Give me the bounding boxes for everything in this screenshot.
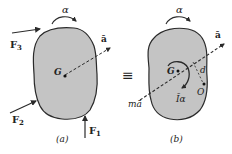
angular-accel-arrow-icon	[166, 17, 190, 24]
center-of-mass-point-a	[63, 74, 66, 77]
inertia-force-label: mā	[128, 99, 142, 109]
distance-label: d	[200, 65, 206, 75]
o-label: O	[197, 87, 205, 97]
rigid-body-a	[33, 28, 97, 120]
force-f3-label: F3	[10, 39, 22, 52]
force-f2-arrow	[10, 101, 36, 113]
caption-a: (a)	[56, 134, 69, 144]
kinetics-diagram: α ā G F3 F2 F1 (a) ≡ α ā mā G Īα	[0, 0, 232, 154]
alpha-label-b: α	[176, 4, 183, 15]
accel-label-b: ā	[215, 30, 221, 40]
force-f3-arrow	[12, 29, 40, 33]
caption-b: (b)	[170, 134, 183, 144]
force-f1-label: F1	[89, 125, 101, 138]
angular-accel-arrow-icon	[52, 17, 76, 24]
inertia-moment-label: Īα	[175, 93, 186, 104]
accel-label-a: ā	[101, 34, 107, 44]
equivalence-symbol: ≡	[122, 67, 134, 83]
g-label-a: G	[54, 67, 62, 77]
point-o	[203, 83, 206, 86]
force-f2-label: F2	[12, 114, 24, 127]
g-label-b: G	[167, 66, 175, 76]
alpha-label-a: α	[62, 4, 69, 15]
center-of-mass-point-b	[177, 70, 180, 73]
panel-a: α ā G F3 F2 F1 (a)	[10, 4, 110, 144]
panel-b: α ā mā G Īα d O (b)	[128, 4, 224, 144]
